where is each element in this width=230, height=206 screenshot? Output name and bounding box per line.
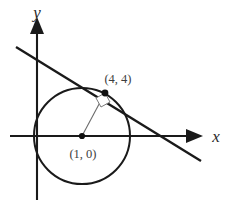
tangent-point-label: (4, 4) [104, 72, 131, 86]
circle-center-dot [79, 133, 85, 139]
diagram-canvas: (1, 0) (4, 4) x y [0, 0, 230, 206]
center-point-label: (1, 0) [69, 147, 96, 161]
y-axis-label: y [31, 3, 41, 22]
geometry-figure: (1, 0) (4, 4) x y [0, 0, 230, 206]
x-axis-arrow-icon [186, 129, 203, 143]
x-axis-label: x [211, 127, 220, 146]
tangent-point-dot [102, 90, 109, 97]
tangent-line [16, 47, 201, 161]
